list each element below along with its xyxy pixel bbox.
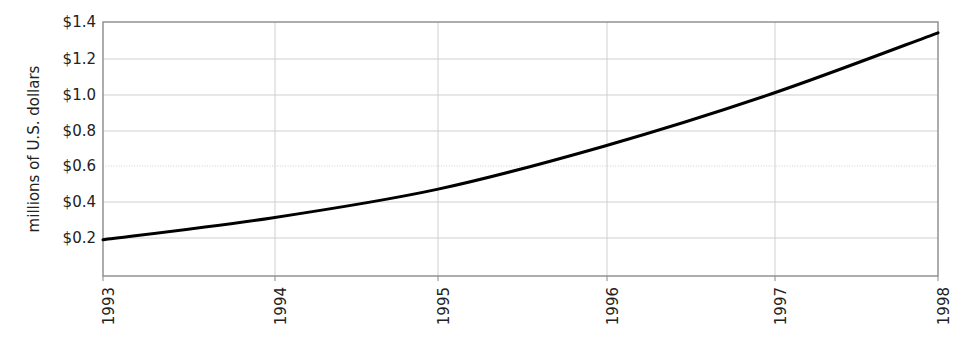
chart-figure: $1.4 $1.2 $1.0 $0.8 $0.6 $0.4 $0.2 1993 … <box>0 0 972 344</box>
x-tick-marks <box>103 276 938 281</box>
x-tick-label: 1998 <box>935 287 953 325</box>
y-tick-label: $0.8 <box>63 122 96 140</box>
line-chart: $1.4 $1.2 $1.0 $0.8 $0.6 $0.4 $0.2 1993 … <box>0 0 972 344</box>
x-tick-label: 1995 <box>435 287 453 325</box>
x-tick-label: 1994 <box>272 287 290 325</box>
y-tick-label: $0.4 <box>63 193 96 211</box>
y-tick-label: $1.2 <box>63 50 96 68</box>
y-tick-label: $1.4 <box>63 13 96 31</box>
x-tick-label: 1993 <box>100 287 118 325</box>
x-tick-labels: 1993 1994 1995 1996 1997 1998 <box>100 287 953 325</box>
y-axis-title: millions of U.S. dollars <box>25 65 43 232</box>
y-tick-label: $1.0 <box>63 86 96 104</box>
y-tick-labels: $1.4 $1.2 $1.0 $0.8 $0.6 $0.4 $0.2 <box>63 13 96 247</box>
x-tick-label: 1997 <box>772 287 790 325</box>
y-tick-label: $0.2 <box>63 229 96 247</box>
y-tick-label: $0.6 <box>63 157 96 175</box>
x-tick-label: 1996 <box>604 287 622 325</box>
